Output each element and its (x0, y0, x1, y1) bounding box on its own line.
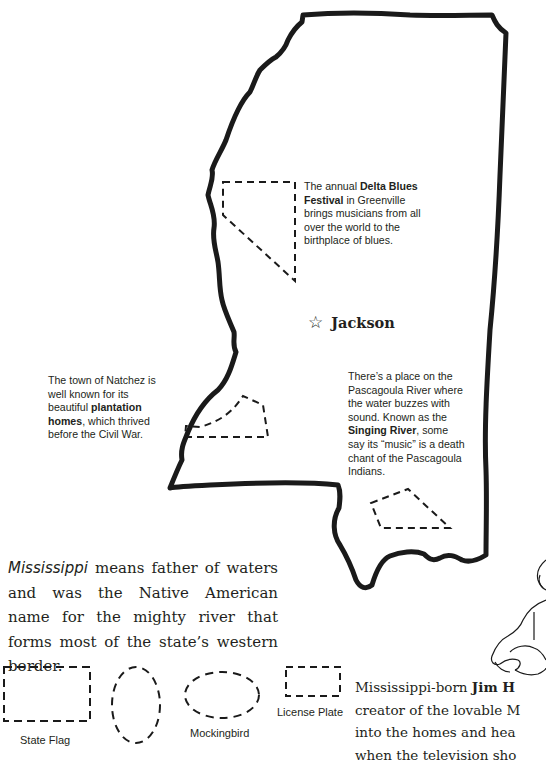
delta-blues-note: The annual Delta Blues Festival in Green… (304, 180, 422, 248)
natchez-note: The town of Natchez is well known for it… (48, 374, 158, 442)
state-outline (170, 13, 506, 588)
jim-henson-bold: Jim H (472, 679, 515, 695)
star-outline-icon: ☆ (308, 314, 323, 331)
mockingbird-dashed-oval (185, 672, 259, 718)
jim-henson-paragraph: Mississippi-born Jim H creator of the lo… (355, 676, 546, 764)
intro-paragraph: Mississippi means father of waters and w… (8, 556, 278, 679)
henson-line-1: Mississippi-born Jim H (355, 676, 546, 699)
state-name-italic: Mississippi (8, 559, 88, 577)
henson-line-4: when the television sho (355, 744, 546, 764)
license-plate-caption: License Plate (277, 706, 343, 718)
jim-henson-illustration (491, 560, 546, 675)
singing-river-bold: Singing River (348, 424, 416, 436)
capital-name: Jackson (331, 314, 395, 331)
capital-label: ☆ Jackson (308, 314, 395, 331)
mockingbird-caption: Mockingbird (190, 727, 249, 739)
henson-line-2: creator of the lovable M (355, 699, 546, 722)
henson-line-3: into the homes and hea (355, 721, 546, 744)
singing-river-dashed-shape (371, 489, 450, 528)
delta-blues-dashed-shape (223, 182, 295, 281)
singing-river-note: There’s a place on the Pascagoula River … (348, 370, 466, 479)
license-plate-dashed-box (286, 667, 340, 696)
state-flag-caption: State Flag (20, 734, 70, 746)
